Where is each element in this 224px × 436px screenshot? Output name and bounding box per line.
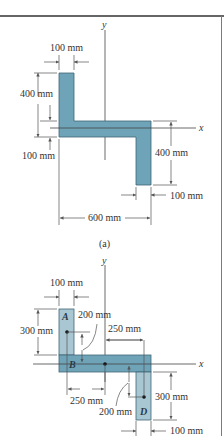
x-axis-label-b: x	[198, 358, 204, 369]
figure-a: y x 100 mm 400 mm 100 mm 400 mm	[20, 19, 204, 250]
dim-right-height-a: 400 mm	[155, 147, 188, 158]
x-axis-label-a: x	[198, 122, 204, 133]
part-label-a: A	[61, 311, 69, 322]
dim-d-offset-b: 200 mm	[99, 406, 132, 417]
figure-b: y x A B D 200 mm 100 mm	[20, 255, 204, 436]
part-label-d: D	[139, 406, 147, 417]
dim-top-width-b: 100 mm	[50, 277, 83, 288]
dim-right-offset-b: 250 mm	[108, 323, 141, 334]
dim-left-offset-b: 250 mm	[70, 395, 103, 406]
dim-bottom-width-a: 100 mm	[170, 190, 203, 201]
dim-right-height-b: 300 mm	[155, 391, 188, 402]
part-label-b: B	[68, 359, 76, 370]
caption-a: (a)	[99, 238, 110, 250]
dim-top-width-a: 100 mm	[50, 42, 83, 53]
dim-left-lower-a: 100 mm	[22, 150, 55, 161]
y-axis-label-a: y	[101, 19, 107, 30]
dim-left-height-a: 400 mm	[20, 88, 53, 99]
dim-left-height-b: 300 mm	[20, 325, 53, 336]
diagram-canvas: y x 100 mm 400 mm 100 mm 400 mm	[0, 0, 224, 436]
y-axis-label-b: y	[101, 255, 107, 266]
dim-bottom-width-b: 100 mm	[170, 425, 203, 436]
dim-total-width-a: 600 mm	[88, 212, 121, 223]
dim-a-offset-b: 200 mm	[78, 309, 111, 320]
